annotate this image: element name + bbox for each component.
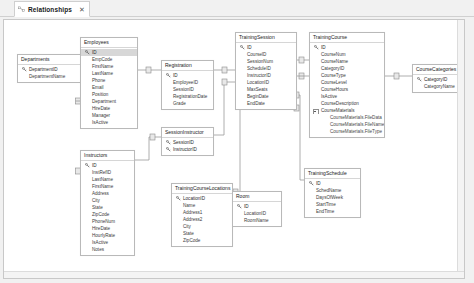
field-row[interactable]: CategoryID (310, 65, 384, 72)
table-title[interactable]: Employees (81, 38, 137, 48)
table-window-employees[interactable]: EmployeesIDEmpCodeFirstNameLastNamePhone… (80, 37, 138, 129)
field-row[interactable]: ZipCode (172, 237, 232, 244)
field-row[interactable]: Address2 (172, 216, 232, 223)
table-title[interactable]: TrainingCourseLocations (172, 184, 232, 194)
table-title[interactable]: SessionInstructor (162, 128, 213, 138)
close-icon[interactable]: ✕ (79, 6, 85, 13)
field-row[interactable]: EmpCode (81, 56, 137, 63)
table-window-training-schedule[interactable]: TrainingScheduleIDSchedNameDaysOfWeekSta… (304, 168, 361, 218)
field-row[interactable]: Phone (81, 77, 137, 84)
table-title[interactable]: Instructors (81, 151, 134, 161)
field-row[interactable]: ID (81, 162, 134, 169)
field-row[interactable]: DepartmentName (18, 73, 80, 80)
field-row[interactable]: LocationID (172, 195, 232, 202)
field-row[interactable]: ScheduleID (236, 65, 296, 72)
field-row[interactable]: State (172, 230, 232, 237)
field-row[interactable]: Email (81, 84, 137, 91)
field-row[interactable]: City (172, 223, 232, 230)
table-title[interactable]: Departments (18, 55, 80, 65)
field-row[interactable]: Name (172, 202, 232, 209)
field-row[interactable]: Department (81, 98, 137, 105)
field-row[interactable]: Address1 (172, 209, 232, 216)
field-row[interactable]: HireDate (81, 105, 137, 112)
field-row[interactable]: CourseNum (310, 51, 384, 58)
field-row[interactable]: Address (81, 190, 134, 197)
field-row[interactable]: ID (236, 44, 296, 51)
field-row[interactable]: DaysOfWeek (305, 194, 360, 201)
field-row[interactable]: LastName (81, 70, 137, 77)
field-row[interactable]: CourseDescription (310, 100, 384, 107)
field-row[interactable]: InstructorID (236, 72, 296, 79)
field-label: ID (321, 45, 326, 50)
field-row[interactable]: CourseType (310, 72, 384, 79)
vertical-scrollbar[interactable] (457, 20, 464, 278)
field-row[interactable]: InstRefID (81, 169, 134, 176)
field-label: ID (173, 73, 178, 78)
field-row[interactable]: HourlyRate (81, 232, 134, 239)
field-row[interactable]: CategoryID (413, 76, 463, 83)
horizontal-scrollbar[interactable] (4, 271, 464, 278)
field-row[interactable]: LastName (81, 176, 134, 183)
field-row[interactable]: Position (81, 91, 137, 98)
field-row[interactable]: CourseMaterials.FileType (310, 128, 384, 135)
table-title[interactable]: CourseCategories (413, 65, 463, 75)
table-window-departments[interactable]: DepartmentsDepartmentIDDepartmentName (17, 54, 81, 83)
table-window-training-session[interactable]: TrainingSessionIDCourseIDSessionNumSched… (235, 32, 297, 110)
field-row[interactable]: DepartmentID (18, 66, 80, 73)
field-row[interactable]: CourseMaterials.FileName (310, 121, 384, 128)
table-title[interactable]: Room (233, 192, 281, 202)
table-window-training-course-locations[interactable]: TrainingCourseLocationsLocationIDNameAdd… (171, 183, 233, 247)
field-row[interactable]: PhoneNum (81, 218, 134, 225)
field-row[interactable]: CourseName (310, 58, 384, 65)
field-row[interactable]: EndTime (305, 208, 360, 215)
field-row[interactable]: ID (233, 203, 281, 210)
field-row[interactable]: State (81, 204, 134, 211)
field-row[interactable]: City (81, 197, 134, 204)
field-row[interactable]: Manager (81, 112, 137, 119)
field-row[interactable]: IsActive (81, 119, 137, 126)
table-title[interactable]: TrainingSession (236, 33, 296, 43)
field-row[interactable]: RoomName (233, 217, 281, 224)
field-row[interactable]: IsActive (310, 93, 384, 100)
tab-relationships[interactable]: Relationships ✕ (14, 1, 90, 17)
field-row[interactable]: MaxSeats (236, 86, 296, 93)
field-row[interactable]: SessionID (162, 139, 213, 146)
table-window-training-course[interactable]: TrainingCourseIDCourseNumCourseNameCateg… (309, 32, 385, 138)
table-window-instructors[interactable]: InstructorsIDInstRefIDLastNameFirstNameA… (80, 150, 135, 256)
field-row[interactable]: SessionID (162, 86, 213, 93)
table-window-registration[interactable]: RegistrationIDEmployeeIDSessionIDRegistr… (161, 60, 214, 110)
field-row[interactable]: ID (162, 72, 213, 79)
field-row[interactable]: InstructorID (162, 146, 213, 153)
field-row[interactable]: FirstName (81, 63, 137, 70)
field-row[interactable]: StartTime (305, 201, 360, 208)
field-row[interactable]: EmployeeID (162, 79, 213, 86)
table-title[interactable]: TrainingCourse (310, 33, 384, 43)
field-row[interactable]: SessionNum (236, 58, 296, 65)
table-title[interactable]: Registration (162, 61, 213, 71)
field-row[interactable]: SchedName (305, 187, 360, 194)
field-row[interactable]: CourseMaterials.FileData (310, 114, 384, 121)
field-row[interactable]: CourseLevel (310, 79, 384, 86)
field-row[interactable]: ID (305, 180, 360, 187)
field-row[interactable]: BeginDate (236, 93, 296, 100)
table-window-room[interactable]: RoomIDLocationIDRoomName (232, 191, 282, 227)
relationships-canvas[interactable]: DepartmentsDepartmentIDDepartmentNameEmp… (3, 19, 465, 279)
field-row[interactable]: IsActive (81, 239, 134, 246)
field-row[interactable]: EndDate (236, 100, 296, 107)
field-row[interactable]: CourseID (236, 51, 296, 58)
field-row[interactable]: LocationID (236, 79, 296, 86)
field-row[interactable]: HireDate (81, 225, 134, 232)
field-row[interactable]: Notes (81, 246, 134, 253)
field-row[interactable]: CourseMaterials (310, 107, 384, 114)
field-row[interactable]: Grade (162, 100, 213, 107)
table-title[interactable]: TrainingSchedule (305, 169, 360, 179)
field-row[interactable]: ID (310, 44, 384, 51)
table-window-session-instructor[interactable]: SessionInstructorSessionIDInstructorID (161, 127, 214, 156)
field-row[interactable]: LocationID (233, 210, 281, 217)
field-row[interactable]: ZipCode (81, 211, 134, 218)
field-row[interactable]: CategoryName (413, 83, 463, 90)
field-row[interactable]: CourseHours (310, 86, 384, 93)
field-row[interactable]: FirstName (81, 183, 134, 190)
field-row[interactable]: RegistrationDate (162, 93, 213, 100)
field-row[interactable]: ID (81, 49, 137, 56)
